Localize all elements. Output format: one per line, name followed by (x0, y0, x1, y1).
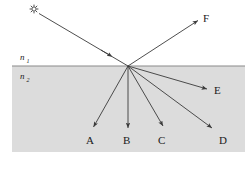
upper-medium-index-letter: n (20, 52, 25, 62)
ray-label-d: D (219, 134, 227, 146)
ray-label-e: E (214, 84, 221, 96)
optics-diagram: n 1 n 2 A B C D E F (0, 0, 245, 169)
ray-label-f: F (203, 12, 209, 24)
ray-label-c: C (158, 134, 165, 146)
lower-medium-index-letter: n (20, 71, 25, 81)
ray-label-a: A (86, 134, 94, 146)
lower-medium-index-subscript: 2 (27, 77, 30, 83)
ray-label-b: B (123, 134, 130, 146)
upper-medium-index-subscript: 1 (27, 58, 30, 64)
